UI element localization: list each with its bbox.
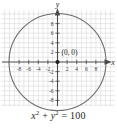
equation-caption: x2 + y2 = 100 [0, 110, 117, 122]
y-tick-label: -6 [49, 88, 54, 94]
x-tick-label: 6 [85, 66, 88, 72]
x-tick-label: 2 [66, 66, 69, 72]
y-tick-label: 8 [51, 21, 54, 27]
graph-figure: -8 -6 -4 -2 2 4 6 8 8 6 4 2 -2 -4 -6 -8 … [0, 0, 117, 128]
y-tick-label: -4 [49, 78, 54, 84]
y-axis-arrowhead [55, 8, 60, 16]
x-axis-label: x [110, 58, 115, 67]
origin-point-marker [55, 60, 59, 64]
caption-value: 100 [70, 110, 86, 121]
x-tick-label: -4 [36, 66, 41, 72]
y-tick-label: 4 [51, 40, 54, 46]
x-tick-label: 8 [95, 66, 98, 72]
y-axis-label: y [55, 0, 60, 9]
y-tick-label: -8 [49, 97, 54, 103]
y-tick-label: -2 [49, 69, 54, 75]
y-tick-label: 6 [51, 30, 54, 36]
x-tick-label: -8 [17, 66, 22, 72]
x-tick-label: 4 [75, 66, 78, 72]
caption-equals-sign: = [59, 110, 70, 121]
y-tick-label: 2 [51, 49, 54, 55]
x-tick-label: -6 [26, 66, 31, 72]
caption-plus-sign: + [39, 110, 50, 121]
origin-point-label: (0, 0) [62, 48, 79, 57]
